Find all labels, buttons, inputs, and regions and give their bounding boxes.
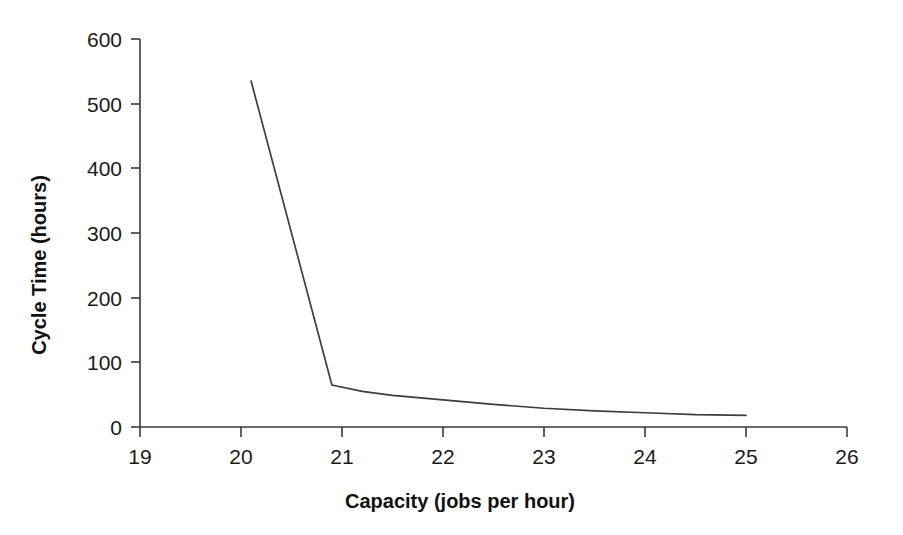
y-tick-label-600: 600	[87, 28, 122, 51]
y-tick-label-400: 400	[87, 157, 122, 180]
y-tick-marks	[131, 39, 140, 427]
y-tick-label-300: 300	[87, 222, 122, 245]
x-axis-title: Capacity (jobs per hour)	[345, 490, 575, 512]
y-axis-title: Cycle Time (hours)	[28, 175, 50, 355]
y-tick-label-500: 500	[87, 93, 122, 116]
x-tick-labels: 19 20 21 22 23 24 25 26	[128, 445, 858, 468]
chart-canvas: 600 500 400 300 200 100 0 19 20 21 22 23…	[0, 0, 903, 535]
chart-figure: 600 500 400 300 200 100 0 19 20 21 22 23…	[0, 0, 903, 535]
x-tick-label-20: 20	[229, 445, 252, 468]
y-tick-label-0: 0	[110, 416, 122, 439]
x-tick-label-25: 25	[734, 445, 757, 468]
x-tick-label-22: 22	[431, 445, 454, 468]
y-tick-label-200: 200	[87, 287, 122, 310]
y-tick-labels: 600 500 400 300 200 100 0	[87, 28, 122, 439]
x-tick-label-23: 23	[532, 445, 555, 468]
x-tick-label-21: 21	[330, 445, 353, 468]
y-tick-label-100: 100	[87, 351, 122, 374]
x-tick-label-19: 19	[128, 445, 151, 468]
data-curve-cycle-time	[251, 81, 746, 415]
x-tick-label-26: 26	[835, 445, 858, 468]
x-tick-label-24: 24	[633, 445, 657, 468]
x-tick-marks	[140, 427, 847, 437]
